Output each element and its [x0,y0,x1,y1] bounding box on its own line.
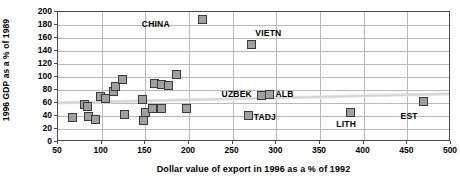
y-tick-label: 200 [22,7,52,15]
y-tick-label: 100 [22,72,52,80]
x-tick-mark [57,141,58,144]
data-point [139,116,148,125]
data-point [198,15,207,24]
point-label-lith: LITH [336,119,356,129]
point-label-uzbek: UZBEK [222,89,252,99]
plot-area: CHINAVIETNUZBEKALBTADJLITHEST [57,11,450,141]
x-tick-label: 450 [386,146,426,155]
point-label-est: EST [401,111,418,121]
x-tick-label: 500 [430,146,460,155]
point-label-alb: ALB [275,89,293,99]
x-tick-label: 350 [299,146,339,155]
x-tick-mark [450,141,451,144]
point-label-china: CHINA [142,19,170,29]
x-tick-label: 200 [168,146,208,155]
x-tick-label: 300 [255,146,295,155]
data-point [68,113,77,122]
data-point [118,75,127,84]
data-point [265,90,274,99]
data-point [138,95,147,104]
x-tick-label: 250 [212,146,252,155]
x-tick-label: 100 [81,146,121,155]
x-tick-label: 50 [37,146,77,155]
scatter-chart: 1996 GDP as a % of 1989 0204060801001201… [0,0,460,181]
x-tick-mark [275,141,276,144]
data-point [91,115,100,124]
data-point [346,108,355,117]
x-tick-label: 150 [124,146,164,155]
x-tick-mark [406,141,407,144]
data-point [182,104,191,113]
y-tick-label: 140 [22,46,52,54]
y-tick-label: 160 [22,33,52,41]
y-tick-label: 40 [22,111,52,119]
y-tick-label: 80 [22,85,52,93]
data-point [244,111,253,120]
data-point [157,104,166,113]
x-axis-title: Dollar value of export in 1996 as a % of… [57,164,450,174]
x-tick-mark [144,141,145,144]
x-tick-mark [188,141,189,144]
y-axis-title: 1996 GDP as a % of 1989 [0,0,13,140]
data-point [164,81,173,90]
y-tick-label: 180 [22,20,52,28]
data-point [247,40,256,49]
x-tick-mark [101,141,102,144]
data-point [120,110,129,119]
data-point [172,70,181,79]
x-tick-mark [232,141,233,144]
y-tick-label: 120 [22,59,52,67]
y-tick-label: 0 [22,137,52,145]
x-tick-mark [363,141,364,144]
data-point [148,104,157,113]
data-point [83,102,92,111]
data-point [419,97,428,106]
x-tick-label: 400 [343,146,383,155]
x-tick-mark [319,141,320,144]
y-tick-label: 20 [22,124,52,132]
point-label-tadj: TADJ [254,112,276,122]
point-label-vietn: VIETN [255,28,281,38]
y-tick-label: 60 [22,98,52,106]
